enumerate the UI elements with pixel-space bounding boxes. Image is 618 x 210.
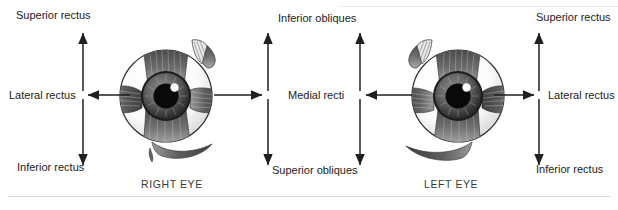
label-left-lateral-rectus: Lateral rectus [9, 89, 76, 102]
label-left-inferior-rectus: Inferior rectus [17, 161, 84, 174]
right-eye-illustration [106, 30, 230, 170]
bottom-rule [8, 196, 610, 197]
caption-right-eye: RIGHT EYE [141, 178, 203, 190]
label-left-superior-rectus: Superior rectus [16, 9, 91, 22]
caption-left-eye: LEFT EYE [424, 178, 478, 190]
diagram-canvas: Superior rectus Lateral rectus Inferior … [0, 0, 618, 210]
arrow-overlay [0, 0, 618, 210]
top-rule [340, 6, 618, 7]
label-right-inferior-rectus: Inferior rectus [536, 163, 603, 176]
label-right-superior-rectus: Superior rectus [536, 11, 611, 24]
label-right-lateral-rectus: Lateral rectus [548, 89, 615, 102]
left-eye-illustration [394, 30, 518, 170]
label-center-inferior-obliques: Inferior obliques [278, 12, 356, 25]
label-center-medial-recti: Medial recti [288, 89, 344, 102]
label-center-superior-obliques: Superior obliques [272, 164, 358, 177]
